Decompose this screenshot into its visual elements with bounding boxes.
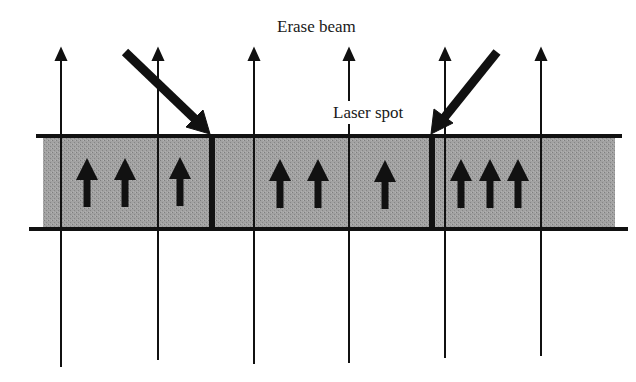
- erase-beam-label: Erase beam: [277, 17, 356, 36]
- field-line-arrow-icon: [344, 49, 354, 60]
- erase-beam-arrow-icon: [125, 52, 210, 134]
- magnetic-recording-diagram: Erase beam Laser spot: [0, 0, 636, 382]
- domain-wall-left: [209, 136, 215, 230]
- field-line-arrow-icon: [440, 49, 450, 60]
- field-line-arrow-icon: [153, 49, 163, 60]
- field-line-arrow-icon: [536, 49, 546, 60]
- field-line-arrow-icon: [56, 49, 66, 60]
- field-line-arrow-icon: [249, 49, 259, 60]
- domain-wall-right: [429, 136, 435, 230]
- recording-medium-band: [43, 138, 615, 228]
- laser-spot-label: Laser spot: [333, 103, 404, 122]
- laser-beam-arrow-icon: [431, 52, 497, 134]
